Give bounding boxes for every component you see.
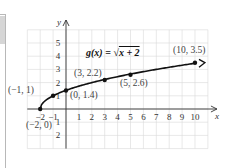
x-tick-label: 10 <box>191 112 201 122</box>
curve-arrow-icon <box>199 59 205 67</box>
y-axis-label: y <box>56 17 61 27</box>
data-point <box>128 72 132 76</box>
function-graph: −2−1123456789105432112 g(x) = √x + 2 (−2… <box>0 0 233 168</box>
x-axis-label: x <box>214 111 219 121</box>
x-tick-label: 4 <box>115 112 120 122</box>
x-tick-label: 5 <box>128 112 133 122</box>
data-point <box>103 78 107 82</box>
x-tick-label: 6 <box>141 112 146 122</box>
point-label-0-1-4: (0, 1.4) <box>70 90 98 101</box>
y-tick-label: 1 <box>56 117 61 127</box>
point-label-neg2-0: (−2, 0) <box>26 120 52 131</box>
data-point <box>38 107 42 111</box>
point-label-10-3-5: (10, 3.5) <box>173 45 205 56</box>
y-tick-label: 5 <box>56 38 61 48</box>
function-title: g(x) = √x + 2 <box>85 47 140 59</box>
data-point <box>51 94 55 98</box>
point-label-3-2-2: (3, 2.2) <box>74 68 102 79</box>
y-tick-label: 3 <box>56 64 61 74</box>
x-tick-label: 3 <box>102 112 107 122</box>
x-tick-label: 2 <box>90 112 95 122</box>
y-tick-label: 2 <box>56 78 61 88</box>
y-tick-label: 2 <box>56 130 61 140</box>
data-point <box>193 61 197 65</box>
x-tick-label: 1 <box>77 112 82 122</box>
x-tick-label: 8 <box>167 112 172 122</box>
x-tick-label: 7 <box>154 112 159 122</box>
data-point <box>64 88 68 92</box>
point-label-neg1-1: (−1, 1) <box>8 85 34 96</box>
point-label-5-2-6: (5, 2.6) <box>120 78 148 89</box>
x-tick-label: 9 <box>180 112 185 122</box>
y-tick-label: 4 <box>56 51 61 61</box>
